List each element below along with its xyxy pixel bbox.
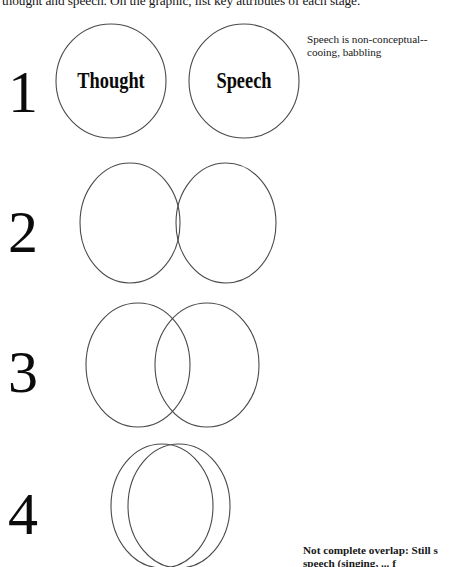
instruction-text: thought and speech. On the graphic, list… <box>2 0 453 8</box>
thought-ellipse <box>111 444 213 567</box>
annotation-stage-4: Not complete overlap: Still s speech (si… <box>303 544 453 567</box>
venn-diagram-stage-4 <box>48 442 308 567</box>
thought-label: Thought <box>63 69 159 92</box>
annotation-stage-4-line-2: speech (singing, ... f <box>303 557 453 567</box>
stage-number-3: 3 <box>8 342 38 402</box>
venn-diagram-stage-2 <box>48 162 308 286</box>
stage-number-4: 4 <box>8 484 38 544</box>
speech-ellipse <box>128 444 230 567</box>
thought-ellipse <box>80 163 180 283</box>
speech-ellipse <box>176 163 276 283</box>
annotation-stage-1-line-2: cooing, babbling <box>307 46 453 59</box>
speech-ellipse <box>155 303 259 427</box>
annotation-stage-4-line-1: Not complete overlap: Still s <box>303 544 453 557</box>
thought-ellipse <box>86 303 190 427</box>
annotation-stage-1-line-1: Speech is non-conceptual-- <box>307 33 453 46</box>
stage-number-2: 2 <box>8 202 38 262</box>
venn-diagram-stage-3 <box>48 302 308 430</box>
speech-label: Speech <box>196 69 292 92</box>
stage-number-1: 1 <box>8 62 38 122</box>
instruction-line: thought and speech. On the graphic, list… <box>0 0 453 15</box>
annotation-stage-1: Speech is non-conceptual-- cooing, babbl… <box>307 33 453 58</box>
